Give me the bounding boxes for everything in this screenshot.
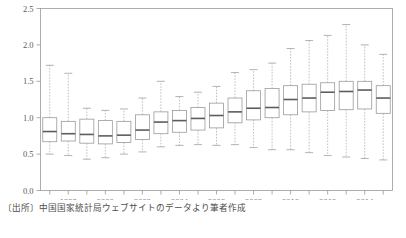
box-group — [358, 45, 372, 159]
box-iqr — [117, 121, 131, 142]
box-group — [228, 73, 242, 145]
chart-plot-area: 0.00.51.01.52.02.5 199820002002200420062… — [0, 0, 406, 200]
x-tick-label: 1998 — [60, 197, 77, 201]
x-axis: 199820002002200420062008201020122014 — [50, 191, 383, 201]
y-axis: 0.00.51.01.52.02.5 — [23, 4, 41, 196]
x-tick-label: 2000 — [97, 197, 114, 201]
y-tick-label: 1.0 — [23, 113, 34, 123]
box-group — [376, 54, 390, 160]
box-iqr — [247, 91, 261, 120]
box-iqr — [135, 115, 149, 140]
box-iqr — [98, 121, 112, 144]
source-note: 〔出所〕中国国家統計局ウェブサイトのデータより筆者作成 — [3, 203, 403, 214]
box-iqr — [80, 119, 94, 143]
box-iqr — [61, 121, 75, 141]
box-iqr — [228, 98, 242, 123]
box-group — [321, 35, 335, 155]
box-group — [284, 49, 298, 150]
box-group — [117, 109, 131, 154]
box-group — [154, 81, 168, 147]
x-tick-label: 2004 — [171, 197, 189, 201]
y-tick-label: 0.5 — [23, 149, 34, 159]
x-tick-label: 2012 — [319, 197, 336, 201]
box-group — [98, 110, 112, 157]
x-tick-label: 2010 — [282, 197, 299, 201]
box-iqr — [358, 81, 372, 109]
box-group — [210, 86, 224, 145]
x-tick-label: 2006 — [208, 197, 225, 201]
box-iqr — [43, 118, 57, 142]
x-tick-label: 2014 — [356, 197, 374, 201]
box-plot-svg: 0.00.51.01.52.02.5 199820002002200420062… — [0, 0, 406, 200]
box-group — [135, 98, 149, 152]
box-group — [265, 63, 279, 150]
box-group — [191, 92, 205, 144]
box-group — [247, 70, 261, 148]
box-iqr — [339, 81, 353, 109]
box-group — [61, 73, 75, 155]
y-tick-label: 2.5 — [23, 4, 34, 14]
box-group — [172, 97, 186, 146]
box-iqr — [265, 89, 279, 118]
figure-container: 0.00.51.01.52.02.5 199820002002200420062… — [0, 0, 406, 238]
box-series — [43, 25, 390, 160]
box-group — [80, 108, 94, 159]
box-iqr — [321, 83, 335, 111]
y-tick-label: 2.0 — [23, 40, 34, 50]
box-group — [302, 41, 316, 153]
box-group — [43, 65, 57, 154]
y-tick-label: 0.0 — [23, 186, 34, 196]
x-tick-label: 2008 — [245, 197, 262, 201]
box-group — [339, 25, 353, 157]
x-tick-label: 2002 — [134, 197, 151, 201]
y-tick-label: 1.5 — [23, 76, 34, 86]
box-iqr — [376, 86, 390, 114]
